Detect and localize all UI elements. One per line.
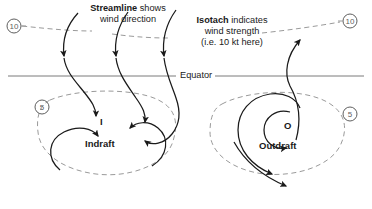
streamline-group-north: [64, 10, 180, 144]
equator-label: Equator: [178, 70, 214, 81]
outdraft-center-letter: O: [284, 120, 291, 131]
isotach-callout-bold: Isotach: [197, 15, 229, 25]
isotach-callout-line3: (i.e. 10 kt here): [176, 37, 288, 48]
isotach-callout-rest: indicates: [229, 15, 268, 25]
isotach-callout-line2: wind strength: [176, 26, 288, 37]
streamline-north-2-lower: [116, 58, 145, 122]
streamline-isotach-diagram: Streamline shows wind direction Isotach …: [0, 0, 372, 209]
indraft-spiral-inner: [130, 123, 166, 166]
indraft-label: Indraft: [85, 138, 115, 149]
isotach-value-5-right: 5: [343, 108, 357, 121]
streamline-callout-rest: shows: [137, 3, 166, 13]
streamline-callout-bold: Streamline: [90, 3, 137, 13]
streamline-north-3-lower: [145, 58, 179, 144]
isotach-callout-line1: Isotach indicates: [176, 15, 288, 26]
isotach-5-left-loop: [38, 91, 176, 175]
streamline-callout-line1: Streamline shows: [74, 3, 182, 14]
isotach-value-10-left: 10: [7, 20, 21, 33]
streamline-callout: Streamline shows wind direction: [74, 3, 182, 25]
indraft-center-letter: I: [100, 116, 103, 127]
isotach-5-right-loop: [210, 92, 345, 174]
outdraft-label: Outdraft: [259, 140, 296, 151]
streamline-north-1-lower: [64, 58, 96, 116]
outdraft-spiral-outer: [238, 94, 300, 174]
outdraft-spiral-group: [234, 40, 300, 186]
isotach-callout: Isotach indicates wind strength (i.e. 10…: [176, 15, 288, 48]
isotach-value-10-right: 10: [343, 15, 357, 28]
isotach-value-5-left: 5: [35, 101, 49, 114]
streamline-callout-line2: wind direction: [74, 14, 182, 25]
